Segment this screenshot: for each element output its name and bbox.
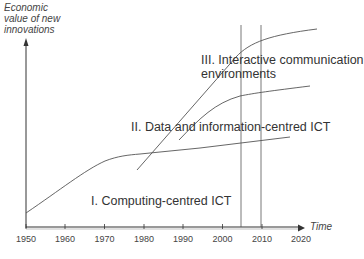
y-axis-label-line: Economic	[4, 2, 60, 13]
x-axis-label: Time	[310, 221, 332, 232]
x-tick-label: 1980	[134, 234, 154, 244]
x-tick-label: 2020	[291, 234, 311, 244]
y-axis-label-line: innovations	[4, 24, 60, 35]
label-interactive-communication-line2: environments	[201, 67, 276, 81]
curve-interactive-communication	[137, 29, 317, 170]
x-tick-label: 2010	[252, 234, 272, 244]
label-interactive-communication-line1: III. Interactive communication	[201, 53, 364, 67]
x-tick-label: 1990	[173, 234, 193, 244]
label-data-information-centred: II. Data and information-centred ICT	[131, 120, 330, 134]
x-tick-label: 1960	[55, 234, 75, 244]
x-axis-arrow-icon	[298, 225, 305, 232]
label-computing-centred: I. Computing-centred ICT	[91, 194, 231, 208]
x-tick-label: 1950	[16, 234, 36, 244]
y-axis-arrow-icon	[24, 38, 29, 46]
y-axis-label: Economic value of new innovations	[4, 2, 60, 35]
y-axis-label-line: value of new	[4, 13, 60, 24]
x-tick-label: 2000	[212, 234, 232, 244]
x-tick-label: 1970	[94, 234, 114, 244]
